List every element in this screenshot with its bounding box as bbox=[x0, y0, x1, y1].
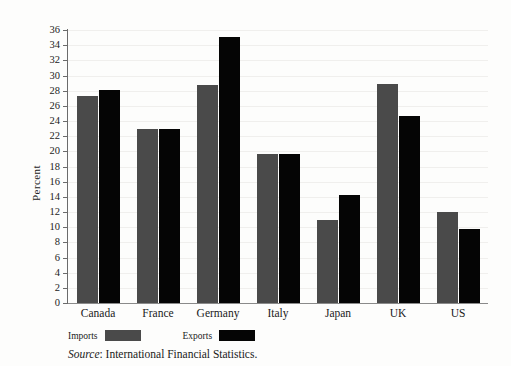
y-tick-mark bbox=[63, 167, 68, 168]
y-tick-mark bbox=[63, 91, 68, 92]
y-tick-mark bbox=[63, 106, 68, 107]
y-tick-label: 16 bbox=[50, 176, 61, 187]
x-axis-line bbox=[67, 303, 488, 304]
y-tick-label: 36 bbox=[50, 25, 61, 36]
y-tick-mark bbox=[63, 212, 68, 213]
legend-label-imports: Imports bbox=[68, 331, 98, 341]
x-category-label: Japan bbox=[308, 307, 368, 319]
gridline bbox=[68, 136, 488, 137]
y-tick-label: 22 bbox=[50, 131, 61, 142]
y-tick-label: 20 bbox=[50, 146, 61, 157]
x-category-label: Canada bbox=[68, 307, 128, 319]
y-tick-label: 10 bbox=[50, 222, 61, 233]
bar-us-exports bbox=[459, 229, 480, 303]
legend-item-exports: Exports bbox=[183, 330, 256, 341]
y-tick-mark bbox=[63, 288, 68, 289]
y-tick-label: 32 bbox=[50, 55, 61, 66]
source-prefix: Source bbox=[68, 348, 100, 360]
y-tick-label: 12 bbox=[50, 207, 61, 218]
bar-france-exports bbox=[159, 129, 180, 303]
gridline bbox=[68, 60, 488, 61]
source-text: International Financial Statistics. bbox=[106, 348, 258, 360]
x-category-label: Italy bbox=[248, 307, 308, 319]
y-tick-mark bbox=[63, 151, 68, 152]
x-category-label: Germany bbox=[188, 307, 248, 319]
y-axis-label: Percent bbox=[30, 165, 42, 201]
y-tick-label: 8 bbox=[55, 237, 60, 248]
legend-swatch-imports bbox=[105, 330, 141, 341]
bar-japan-exports bbox=[339, 195, 360, 303]
gridline bbox=[68, 151, 488, 152]
chart-legend: Imports Exports bbox=[68, 330, 255, 341]
y-tick-mark bbox=[63, 30, 68, 31]
y-tick-mark bbox=[63, 242, 68, 243]
legend-label-exports: Exports bbox=[183, 331, 213, 341]
bar-japan-imports bbox=[317, 220, 338, 303]
legend-item-imports: Imports bbox=[68, 330, 141, 341]
bar-germany-exports bbox=[219, 37, 240, 303]
y-tick-label: 26 bbox=[50, 101, 61, 112]
y-tick-label: 24 bbox=[50, 116, 61, 127]
gridline bbox=[68, 91, 488, 92]
y-tick-mark bbox=[63, 258, 68, 259]
y-tick-label: 28 bbox=[50, 85, 61, 96]
y-tick-mark bbox=[63, 303, 68, 304]
y-tick-mark bbox=[63, 76, 68, 77]
bar-uk-exports bbox=[399, 116, 420, 303]
gridline bbox=[68, 45, 488, 46]
y-tick-mark bbox=[63, 60, 68, 61]
y-tick-label: 0 bbox=[55, 298, 60, 309]
plot-area: 024681012141618202224262830323436 Canada… bbox=[68, 30, 488, 303]
bar-germany-imports bbox=[197, 85, 218, 303]
bar-us-imports bbox=[437, 212, 458, 303]
bar-italy-imports bbox=[257, 154, 278, 303]
bar-canada-exports bbox=[99, 90, 120, 303]
chart-figure: Percent 02468101214161820222426283032343… bbox=[0, 0, 511, 366]
gridline bbox=[68, 30, 488, 31]
y-tick-label: 30 bbox=[50, 70, 61, 81]
y-tick-label: 14 bbox=[50, 192, 61, 203]
x-category-label: France bbox=[128, 307, 188, 319]
x-category-label: US bbox=[428, 307, 488, 319]
y-tick-mark bbox=[63, 197, 68, 198]
y-tick-label: 34 bbox=[50, 40, 61, 51]
gridline bbox=[68, 106, 488, 107]
y-tick-label: 18 bbox=[50, 161, 61, 172]
bar-france-imports bbox=[137, 129, 158, 303]
bar-canada-imports bbox=[77, 96, 98, 303]
x-category-label: UK bbox=[368, 307, 428, 319]
y-tick-label: 2 bbox=[55, 283, 60, 294]
bar-italy-exports bbox=[279, 154, 300, 303]
y-tick-mark bbox=[63, 121, 68, 122]
y-tick-mark bbox=[63, 273, 68, 274]
legend-swatch-exports bbox=[219, 330, 255, 341]
source-note: Source: International Financial Statisti… bbox=[68, 348, 257, 360]
y-tick-label: 6 bbox=[55, 252, 60, 263]
y-tick-mark bbox=[63, 182, 68, 183]
y-tick-mark bbox=[63, 136, 68, 137]
y-tick-label: 4 bbox=[55, 267, 60, 278]
y-tick-mark bbox=[63, 227, 68, 228]
bar-uk-imports bbox=[377, 84, 398, 303]
gridline bbox=[68, 121, 488, 122]
y-tick-mark bbox=[63, 45, 68, 46]
gridline bbox=[68, 76, 488, 77]
